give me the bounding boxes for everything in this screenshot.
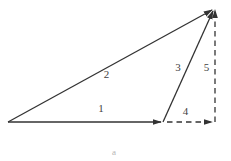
vector-labels: 12345 (98, 61, 210, 117)
vector-1-label: 1 (98, 102, 104, 114)
vector-3-label: 3 (175, 61, 181, 73)
subfigure-caption: a (112, 147, 116, 157)
vector-2-label: 2 (104, 68, 110, 80)
vector-4-label: 4 (183, 105, 189, 117)
vector-2-line (8, 10, 212, 122)
diagram-canvas: 12345 (0, 0, 231, 161)
vector-diagram: 12345 a (0, 0, 231, 161)
vector-5-label: 5 (204, 61, 210, 73)
